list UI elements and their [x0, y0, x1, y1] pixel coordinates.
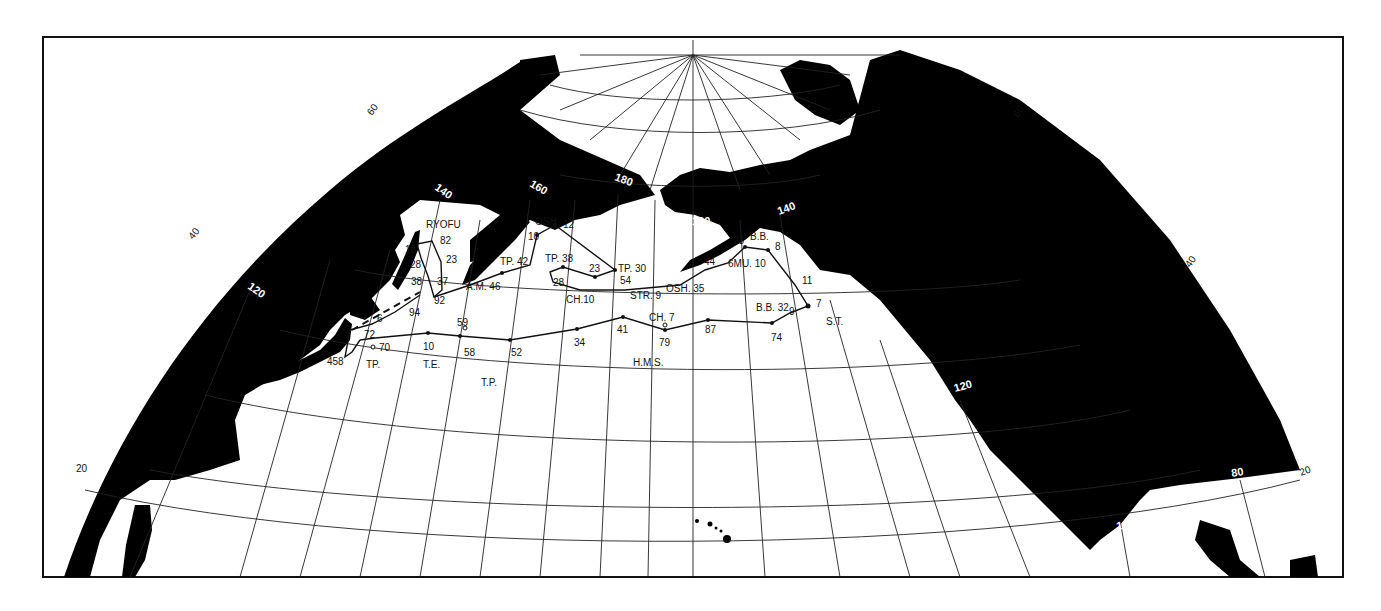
ship-label: B.B. — [750, 231, 769, 242]
ship-label: STR. 9 — [630, 290, 662, 301]
ship-label: A.M. 46 — [466, 281, 501, 292]
point-label: 54 — [620, 275, 632, 286]
longitude-label: 160 — [692, 215, 710, 227]
ship-label: S.T. — [826, 316, 843, 327]
point-label: 10 — [423, 341, 435, 352]
point-label: 28 — [553, 277, 565, 288]
ship-label: B.B. 32 — [756, 302, 789, 313]
ship-label: H.M.S. — [633, 357, 664, 368]
point-label: 10 — [528, 231, 540, 242]
ship-label: CH. 7 — [649, 312, 675, 323]
point-label: 37 — [437, 276, 449, 287]
point-label: 7 — [816, 298, 822, 309]
point-label: 44 — [704, 256, 716, 267]
latitude-label: 20 — [76, 463, 88, 474]
point-label: 11 — [802, 275, 813, 286]
point-label: 79 — [659, 337, 671, 348]
point-label: 38 — [411, 276, 423, 287]
ship-label: T.E. — [423, 359, 440, 370]
ship-label: TP. 30 — [618, 263, 647, 274]
point-label: 82 — [440, 235, 452, 246]
point-label: 9 — [789, 306, 795, 317]
point-label: 70 — [379, 342, 391, 353]
point-label: 18 — [405, 244, 417, 255]
pacific-map: 604020604020 12014016018016014012010080 … — [0, 0, 1381, 611]
point-label: 92 — [434, 295, 446, 306]
longitude-label: 80 — [1230, 465, 1244, 479]
point-label: 28 — [410, 259, 422, 270]
point-label: 52 — [511, 347, 523, 358]
point-label: 458 — [327, 356, 344, 367]
point-label: 12 — [563, 219, 575, 230]
ship-label: T.P. — [481, 377, 497, 388]
ship-label: TP. 38 — [545, 253, 574, 264]
point-label: 23 — [589, 263, 601, 274]
point-label: 23 — [733, 235, 745, 246]
ship-label: TP. 42 — [500, 256, 529, 267]
ship-label: OSH. 35 — [666, 283, 705, 294]
point-label: 41 — [617, 324, 629, 335]
point-label: 23 — [446, 254, 458, 265]
point-label: 6 — [377, 313, 383, 324]
ship-label: RYOFU — [426, 219, 461, 230]
point-label: 74 — [771, 332, 783, 343]
point-label: 8 — [775, 241, 781, 252]
point-label: 34 — [574, 337, 586, 348]
point-label: 87 — [705, 324, 717, 335]
point-label: 94 — [409, 307, 421, 318]
point-label: 59 — [457, 317, 469, 328]
ship-label: CH.10 — [566, 294, 595, 305]
ship-label: 6MU. 10 — [728, 258, 766, 269]
ship-label: TP. — [366, 359, 380, 370]
point-label: 72 — [364, 329, 376, 340]
point-label: 58 — [464, 347, 476, 358]
ship-label: OSH. — [535, 216, 559, 227]
